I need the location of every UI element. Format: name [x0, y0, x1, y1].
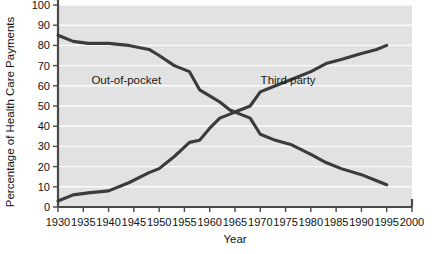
x-tick-label: 1930: [46, 216, 70, 228]
x-tick-label: 1995: [374, 216, 398, 228]
x-tick-label: 1985: [324, 216, 348, 228]
x-tick-label: 1950: [147, 216, 171, 228]
x-tick-label: 1965: [223, 216, 247, 228]
y-tick-label: 20: [38, 161, 50, 173]
y-tick-label: 30: [38, 140, 50, 152]
x-tick-label: 1975: [273, 216, 297, 228]
x-tick-label: 1955: [172, 216, 196, 228]
x-tick-label: 1980: [299, 216, 323, 228]
x-tick-label: 1935: [71, 216, 95, 228]
x-tick-labels: 1930193519401945195019551960196519701975…: [46, 216, 424, 228]
x-tick-label: 1970: [248, 216, 272, 228]
y-tick-label: 10: [38, 181, 50, 193]
x-tick-label: 1940: [96, 216, 120, 228]
x-tick-label: 1990: [349, 216, 373, 228]
y-tick-label: 70: [38, 60, 50, 72]
y-axis-title: Percentage of Health Care Payments: [4, 17, 16, 208]
chart-container: 0102030405060708090100 19301935194019451…: [0, 0, 440, 254]
y-tick-label: 0: [44, 201, 50, 213]
line-chart: 0102030405060708090100 19301935194019451…: [0, 0, 440, 254]
y-tick-label: 50: [38, 100, 50, 112]
y-tick-label: 100: [32, 0, 50, 11]
y-tick-label: 40: [38, 120, 50, 132]
x-tick-label: 2000: [400, 216, 424, 228]
y-tick-label: 60: [38, 80, 50, 92]
annotation-label: Out-of-pocket: [91, 74, 161, 86]
y-tick-label: 80: [38, 39, 50, 51]
x-tick-label: 1960: [197, 216, 221, 228]
annotation-label: Third party: [261, 74, 316, 86]
y-tick-label: 90: [38, 19, 50, 31]
x-tick-label: 1945: [122, 216, 146, 228]
x-axis-title: Year: [223, 233, 246, 245]
